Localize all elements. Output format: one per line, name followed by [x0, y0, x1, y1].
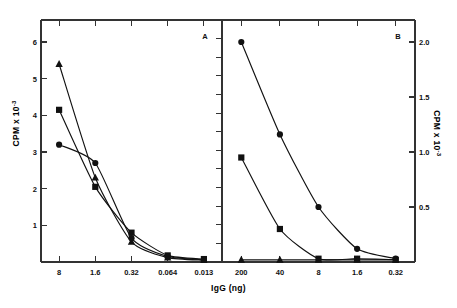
svg-text:1.0: 1.0 — [419, 148, 429, 157]
marker-circle — [128, 235, 134, 241]
svg-text:1.6: 1.6 — [352, 268, 362, 277]
plot-frames — [41, 20, 415, 262]
svg-text:0.5: 0.5 — [419, 203, 429, 212]
marker-square — [277, 226, 283, 232]
marker-circle — [277, 131, 283, 137]
svg-text:2: 2 — [33, 185, 37, 194]
marker-circle — [165, 253, 171, 259]
curve-circle — [241, 42, 395, 259]
svg-text:200: 200 — [235, 268, 248, 277]
svg-text:4: 4 — [33, 111, 38, 120]
tick-labels: 12345681.60.320.0640.0130.51.01.52.02004… — [33, 38, 430, 277]
svg-text:6: 6 — [33, 38, 37, 47]
panel-label-b: B — [395, 32, 401, 41]
marker-triangle — [92, 174, 99, 181]
marker-circle — [238, 39, 244, 45]
chart-canvas: 12345681.60.320.0640.0130.51.01.52.02004… — [0, 0, 457, 308]
marker-square — [92, 184, 98, 190]
y-right-exponent: -3 — [436, 151, 442, 157]
marker-circle — [92, 160, 98, 166]
y-left-exponent: -3 — [11, 100, 17, 106]
svg-text:1: 1 — [33, 221, 37, 230]
svg-text:8: 8 — [57, 268, 61, 277]
panel-label-a: A — [202, 32, 208, 41]
marker-circle — [201, 257, 207, 263]
marker-square — [128, 230, 134, 236]
x-axis-label: IgG (ng) — [0, 283, 457, 293]
svg-text:5: 5 — [33, 75, 37, 84]
svg-text:0.013: 0.013 — [195, 268, 214, 277]
figure: 12345681.60.320.0640.0130.51.01.52.02004… — [0, 0, 457, 308]
data-curves — [59, 42, 396, 260]
marker-square — [56, 107, 62, 113]
svg-text:3: 3 — [33, 148, 37, 157]
svg-text:2.0: 2.0 — [419, 38, 429, 47]
axis-ticks — [41, 20, 415, 262]
svg-text:0.064: 0.064 — [158, 268, 178, 277]
svg-text:40: 40 — [276, 268, 284, 277]
y-axis-label-right: CPM x 10-3 — [432, 93, 443, 173]
svg-text:0.32: 0.32 — [124, 268, 139, 277]
data-markers — [55, 39, 399, 263]
svg-text:1.5: 1.5 — [419, 93, 429, 102]
marker-triangle — [55, 60, 62, 67]
svg-text:1.6: 1.6 — [90, 268, 100, 277]
marker-circle — [315, 204, 321, 210]
svg-text:0.32: 0.32 — [388, 268, 403, 277]
panel-letters: AB — [202, 32, 401, 41]
svg-text:8: 8 — [316, 268, 320, 277]
marker-circle — [56, 142, 62, 148]
marker-square — [238, 154, 244, 160]
marker-circle — [354, 246, 360, 252]
y-axis-label-left: CPM x 10-3 — [11, 83, 22, 163]
